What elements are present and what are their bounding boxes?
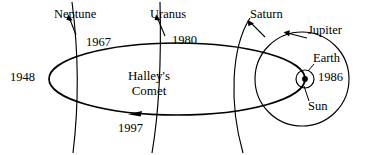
planet-label-neptune: Neptune <box>54 8 96 21</box>
year-label-1980: 1980 <box>172 34 197 47</box>
year-label-1948: 1948 <box>10 71 35 84</box>
comet-name-label: Halley's Comet <box>112 69 186 98</box>
neptune-orbit-arc <box>72 2 77 153</box>
year-label-1967: 1967 <box>86 36 111 49</box>
planet-label-saturn: Saturn <box>250 8 283 21</box>
saturn-orbit-arc <box>234 18 250 153</box>
planet-label-jupiter: Jupiter <box>308 24 342 37</box>
year-label-1986: 1986 <box>318 71 343 84</box>
planet-label-earth: Earth <box>313 52 340 65</box>
halleys-comet-orbit-figure: Neptune Uranus Saturn Jupiter Earth Sun … <box>0 0 368 155</box>
comet-name-line-2: Comet <box>112 84 186 99</box>
star-label-sun: Sun <box>308 100 327 113</box>
sun-dot-marker <box>302 76 308 82</box>
planet-label-uranus: Uranus <box>150 8 186 21</box>
jupiter-leader-line <box>287 33 307 38</box>
year-label-1997: 1997 <box>118 122 143 135</box>
comet-name-line-1: Halley's <box>112 69 186 84</box>
